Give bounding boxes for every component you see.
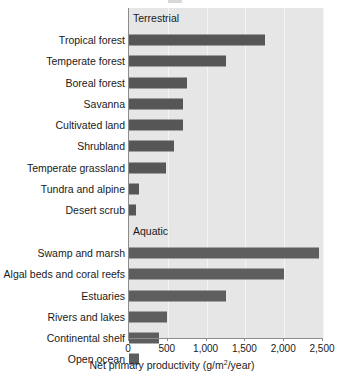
bar (129, 247, 319, 258)
category-label: Temperate grassland (27, 162, 125, 174)
bar (129, 56, 226, 67)
plot-area: TerrestrialTropical forestTemperate fore… (128, 8, 323, 338)
category-label: Desert scrub (65, 204, 125, 216)
x-axis-line (128, 338, 323, 339)
x-tick-label-1500: 1,500 (232, 343, 257, 355)
bar (129, 205, 136, 216)
x-tick-label-2000: 2,000 (271, 343, 296, 355)
x-tick-mark-500 (167, 338, 168, 341)
category-label: Shrubland (77, 140, 125, 152)
category-label: Boreal forest (65, 77, 125, 89)
x-tick-mark-1500 (244, 338, 245, 341)
bar (129, 98, 183, 109)
category-label: Estuaries (81, 290, 125, 302)
chart-row: Tundra and alpine (129, 178, 323, 199)
group-header-aquatic: Aquatic (133, 225, 168, 237)
chart-row: Rivers and lakes (129, 306, 323, 327)
x-tick-label-0: 0 (125, 343, 131, 355)
x-tick-mark-2000 (283, 338, 284, 341)
chart-row: Boreal forest (129, 72, 323, 93)
x-tick-mark-1000 (206, 338, 207, 341)
chart-row: Cultivated land (129, 115, 323, 136)
category-label: Cultivated land (56, 119, 125, 131)
chart-row: Swamp and marsh (129, 242, 323, 263)
category-label: Swamp and marsh (37, 247, 125, 259)
bar (129, 77, 187, 88)
category-label: Continental shelf (47, 332, 125, 344)
bar (129, 184, 139, 195)
chart-row: Desert scrub (129, 200, 323, 221)
scan-artifact (168, 0, 182, 3)
bar (129, 141, 174, 152)
category-label: Tropical forest (59, 34, 125, 46)
x-axis-title: Net primary productivity (g/m2/year) (0, 359, 344, 372)
chart-row: Estuaries (129, 285, 323, 306)
net-primary-productivity-bar-chart: TerrestrialTropical forestTemperate fore… (0, 0, 344, 380)
category-label: Tundra and alpine (41, 183, 125, 195)
category-label: Rivers and lakes (47, 311, 125, 323)
chart-row: Shrubland (129, 136, 323, 157)
chart-row: Temperate forest (129, 51, 323, 72)
chart-row: Algal beds and coral reefs (129, 264, 323, 285)
category-label: Temperate forest (46, 55, 125, 67)
bar (129, 290, 226, 301)
x-tick-label-1000: 1,000 (193, 343, 218, 355)
chart-row: Savanna (129, 93, 323, 114)
bar (129, 120, 183, 131)
x-tick-mark-2500 (322, 338, 323, 341)
category-label: Savanna (84, 98, 125, 110)
chart-row: Tropical forest (129, 29, 323, 50)
x-tick-label-500: 500 (158, 343, 175, 355)
bar (129, 34, 265, 45)
group-header-terrestrial: Terrestrial (133, 12, 179, 24)
gridline-2500 (323, 8, 324, 338)
bar (129, 311, 167, 322)
x-axis-title-superscript: 2 (224, 359, 228, 366)
chart-row: Temperate grassland (129, 157, 323, 178)
x-tick-mark-0 (128, 338, 129, 341)
bar (129, 162, 166, 173)
bar (129, 269, 284, 280)
x-tick-label-2500: 2,500 (309, 343, 334, 355)
category-label: Algal beds and coral reefs (4, 268, 125, 280)
